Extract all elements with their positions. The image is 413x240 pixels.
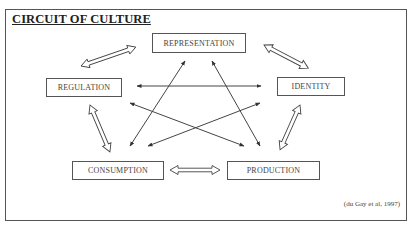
citation: (du Gay et al, 1997) [344,200,400,208]
link-regulation-production [130,103,244,146]
hollow-arrow-identity-production [276,103,304,151]
hollow-arrow-representation-identity [262,41,310,72]
link-representation-production [212,61,260,146]
hollow-arrow-regulation-representation [80,43,138,70]
hollow-arrow-regulation-consumption [86,103,114,153]
link-representation-consumption [130,61,185,146]
node-consumption: CONSUMPTION [72,161,164,180]
node-regulation: REGULATION [46,78,122,97]
hollow-arrow-consumption-production [170,166,220,175]
node-representation: REPRESENTATION [152,33,246,53]
link-identity-consumption [148,103,260,146]
node-identity: IDENTITY [277,77,345,96]
node-production: PRODUCTION [227,161,320,180]
